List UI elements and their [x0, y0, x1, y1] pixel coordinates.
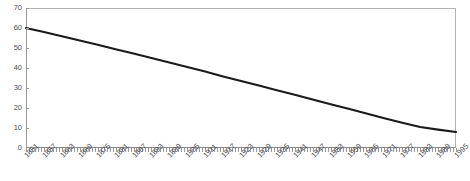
- y-axis-tickmark: [26, 88, 29, 89]
- y-axis-tickmark: [26, 68, 29, 69]
- x-axis-tick-label: 1953: [328, 142, 345, 159]
- x-axis-tick-label: 1947: [310, 142, 327, 159]
- x-axis-tick-label: 1935: [274, 142, 291, 159]
- y-axis-tickmark: [26, 128, 29, 129]
- y-axis-tickmark: [26, 48, 29, 49]
- x-axis-tick-label: 1941: [292, 142, 309, 159]
- x-axis-tick-label: 1929: [256, 142, 273, 159]
- x-axis-tick-label: 1905: [184, 142, 201, 159]
- y-axis-tickmark: [26, 28, 29, 29]
- x-axis-tick-label: 1875: [95, 142, 112, 159]
- x-axis-tick-label: 1911: [202, 143, 218, 159]
- x-axis-tick-label: 1857: [41, 142, 58, 159]
- y-axis-tickmark: [26, 8, 29, 9]
- x-axis-tick-label: 1989: [435, 142, 452, 159]
- y-axis-tickmark: [26, 108, 29, 109]
- x-axis-tick-label: 1851: [23, 142, 40, 159]
- x-axis-tick-label: 1977: [399, 142, 416, 159]
- x-axis-tick-label: 1983: [417, 142, 434, 159]
- x-axis-tick-label: 1881: [113, 142, 130, 159]
- x-axis-tick-label: 1869: [77, 142, 94, 159]
- x-axis-tick-label: 1971: [381, 142, 398, 159]
- x-axis-tick-label: 1887: [131, 142, 148, 159]
- x-axis-tick-label: 1923: [238, 142, 255, 159]
- x-axis-tick-label: 1863: [59, 142, 76, 159]
- x-axis-tick-label: 1899: [166, 142, 183, 159]
- x-axis-tick-label: 1995: [453, 142, 470, 159]
- x-axis-tick-label: 1965: [363, 142, 380, 159]
- x-axis-tick-label: 1917: [220, 142, 237, 159]
- x-axis-tick-label: 1959: [346, 142, 363, 159]
- x-axis-tick-label: 1893: [148, 142, 165, 159]
